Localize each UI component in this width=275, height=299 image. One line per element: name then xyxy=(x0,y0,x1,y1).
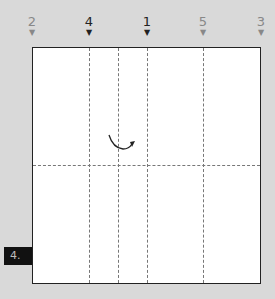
arrow-down-icon: ▼ xyxy=(137,29,157,37)
turn-over-arrow-icon xyxy=(105,132,141,156)
marker-1: 1▼ xyxy=(137,15,157,37)
arrow-down-icon: ▼ xyxy=(79,29,99,37)
arrow-down-icon: ▼ xyxy=(251,29,271,37)
marker-2: 2▼ xyxy=(22,15,42,37)
arrow-down-icon: ▼ xyxy=(22,29,42,37)
fold-line-horizontal xyxy=(33,165,260,166)
arrow-down-icon: ▼ xyxy=(193,29,213,37)
step-number: 4. xyxy=(4,247,32,265)
paper-square xyxy=(32,47,261,284)
marker-5: 5▼ xyxy=(193,15,213,37)
marker-3: 3▼ xyxy=(251,15,271,37)
marker-4: 4▼ xyxy=(79,15,99,37)
